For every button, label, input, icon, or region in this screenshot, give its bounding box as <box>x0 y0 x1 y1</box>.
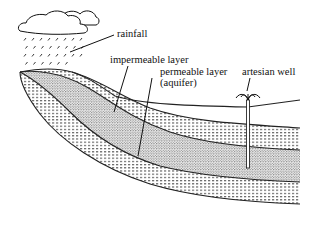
permeable-layer-label: permeable layer <box>160 66 228 77</box>
artesian-well-diagram: rainfall impermeable layer permeable lay… <box>0 0 316 232</box>
raindrop <box>40 38 42 41</box>
raindrop <box>56 38 58 41</box>
raindrop <box>32 38 34 41</box>
rainfall-label: rainfall <box>117 28 147 39</box>
raindrop <box>34 46 36 49</box>
raindrop <box>24 54 26 57</box>
cloud-icon <box>18 11 99 34</box>
raindrop <box>58 46 60 49</box>
raindrop <box>64 54 66 57</box>
raindrop <box>66 62 68 65</box>
raindrop <box>80 38 82 41</box>
impermeable-layer-label: impermeable layer <box>110 54 189 65</box>
raindrop <box>80 54 82 57</box>
raindrop <box>74 46 76 49</box>
raindrop <box>48 38 50 41</box>
raindrop <box>34 62 36 65</box>
raindrop <box>56 54 58 57</box>
raindrop <box>64 38 66 41</box>
raindrop <box>50 46 52 49</box>
raindrop <box>66 46 68 49</box>
well-leader-line <box>247 78 250 91</box>
raindrop <box>72 54 74 57</box>
raindrop <box>40 54 42 57</box>
raindrop <box>72 38 74 41</box>
raindrop <box>58 62 60 65</box>
raindrop <box>24 38 26 41</box>
aquifer-label: (aquifer) <box>160 77 197 89</box>
raindrop <box>42 46 44 49</box>
raindrop <box>50 62 52 65</box>
raindrop <box>42 62 44 65</box>
raindrop <box>26 62 28 65</box>
raindrop <box>32 54 34 57</box>
artesian-well-label: artesian well <box>242 66 295 77</box>
rainfall-leader-line <box>70 35 114 52</box>
raindrop <box>48 54 50 57</box>
rain-icon <box>24 38 84 65</box>
raindrop <box>26 46 28 49</box>
